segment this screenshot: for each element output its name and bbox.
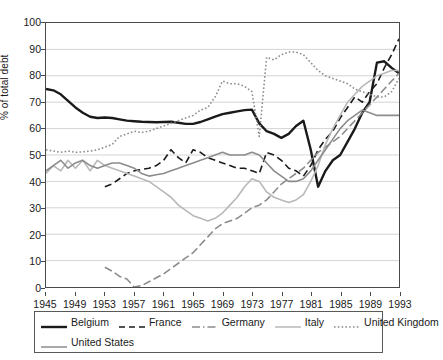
legend-swatch <box>41 318 67 328</box>
x-axis-tick-mark <box>104 292 105 296</box>
legend-item-label: Germany <box>222 317 265 328</box>
x-axis-tick-mark <box>134 292 135 296</box>
legend-row: BelgiumFranceGermanyItalyUnited Kingdom <box>41 312 443 333</box>
legend-line-swatch <box>119 322 145 332</box>
legend-item-label: Italy <box>305 317 324 328</box>
series-line <box>105 39 399 187</box>
y-axis-tick-label: 30 <box>1 203 41 213</box>
x-axis-tick-mark <box>400 292 401 296</box>
y-axis-tick-label: 80 <box>1 70 41 80</box>
x-axis-tick-label: 1993 <box>380 298 420 310</box>
legend-item-label: Belgium <box>71 317 109 328</box>
x-axis-tick-mark <box>341 292 342 296</box>
legend-item[interactable]: United Kingdom <box>334 317 439 328</box>
series-line <box>46 52 399 152</box>
legend-line-swatch <box>275 322 301 332</box>
x-axis-tick-mark <box>311 292 312 296</box>
legend-item-label: United States <box>71 337 134 348</box>
y-axis-tick-label: 60 <box>1 123 41 133</box>
y-axis-tick-label: 50 <box>1 150 41 160</box>
legend-item[interactable]: Belgium <box>41 317 109 328</box>
legend-swatch <box>41 338 67 348</box>
legend-line-swatch <box>41 322 67 332</box>
x-axis-tick-mark <box>163 292 164 296</box>
y-axis-tick-mark <box>41 288 45 289</box>
legend-swatch <box>275 318 301 328</box>
y-axis-tick-label: 100 <box>1 17 41 27</box>
legend-item[interactable]: Germany <box>192 317 265 328</box>
legend-line-swatch <box>334 322 360 332</box>
legend-item-label: United Kingdom <box>364 317 439 328</box>
y-axis-tick-label: 40 <box>1 177 41 187</box>
legend-line-swatch <box>192 322 218 332</box>
x-axis-tick-mark <box>223 292 224 296</box>
x-axis-tick-mark <box>282 292 283 296</box>
legend-item[interactable]: Italy <box>275 317 324 328</box>
x-axis-tick-mark <box>193 292 194 296</box>
x-axis-tick-mark <box>75 292 76 296</box>
x-axis-tick-mark <box>370 292 371 296</box>
legend-swatch <box>334 318 360 328</box>
y-axis-tick-label: 10 <box>1 256 41 266</box>
y-axis-tick-label: 90 <box>1 44 41 54</box>
legend-line-swatch <box>41 342 67 352</box>
y-axis-tick-label: 70 <box>1 97 41 107</box>
legend-item-label: France <box>149 317 182 328</box>
x-axis-tick-mark <box>45 292 46 296</box>
series-line <box>105 73 399 287</box>
legend-item[interactable]: United States <box>41 337 134 348</box>
legend-item[interactable]: France <box>119 317 182 328</box>
legend-swatch <box>119 318 145 328</box>
series-lines <box>46 23 399 287</box>
x-axis-tick-labels: 1945194919531957196119651969197319771981… <box>0 292 419 308</box>
plot-area <box>45 22 400 288</box>
x-axis-tick-mark <box>252 292 253 296</box>
legend: BelgiumFranceGermanyItalyUnited Kingdom … <box>34 311 383 353</box>
y-axis-tick-label: 20 <box>1 230 41 240</box>
legend-row: United States <box>41 332 144 353</box>
legend-swatch <box>192 318 218 328</box>
